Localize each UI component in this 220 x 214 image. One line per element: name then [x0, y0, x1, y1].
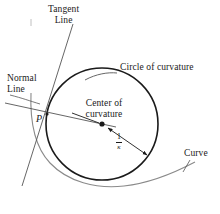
normal-line-label-line2: Line — [7, 84, 37, 95]
tangent-line-label-line1: Tangent — [48, 4, 79, 15]
curve-label-leader-icon — [183, 160, 190, 172]
normal-line-label: Normal Line — [7, 73, 37, 95]
radius-numerator: 1 — [116, 133, 122, 141]
radius-arrow-icon — [108, 128, 147, 155]
tangent-line — [22, 24, 73, 186]
normal-label-leader-icon — [10, 95, 40, 104]
circle-of-curvature-label: Circle of curvature — [120, 62, 194, 73]
radius-of-curvature-label: 1 κ — [116, 133, 122, 151]
normal-line-label-line1: Normal — [7, 73, 37, 84]
tangent-line-label: Tangent Line — [48, 4, 79, 26]
center-of-curvature-label-line1: Center of — [74, 98, 134, 109]
circle-label-leader-icon — [85, 73, 117, 80]
center-of-curvature-label: Center of curvature — [74, 98, 134, 120]
point-p-dot-icon — [45, 112, 48, 115]
point-p-label: P — [36, 113, 42, 124]
curvature-diagram: Tangent Line Normal Line Circle of curva… — [0, 0, 220, 214]
curve-label: Curve — [184, 148, 208, 159]
tangent-line-label-line2: Line — [48, 15, 79, 26]
center-of-curvature-label-line2: curvature — [74, 109, 134, 120]
radius-denominator: κ — [116, 143, 122, 151]
center-point-dot-icon — [99, 121, 104, 126]
